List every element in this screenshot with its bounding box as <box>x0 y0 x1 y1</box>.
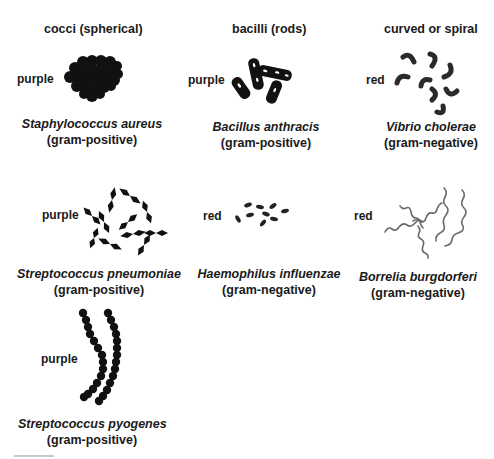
grape-cluster-cocci-icon <box>64 55 123 102</box>
lancet-diplococci-icon <box>81 186 168 257</box>
coccobacilli-icon <box>234 202 289 228</box>
bacteria-illustrations <box>0 0 494 459</box>
rod-bacilli-icon <box>230 57 293 105</box>
chain-cocci-icon <box>79 309 121 405</box>
curved-rod-icon <box>397 54 457 113</box>
spirochete-icon <box>385 188 466 258</box>
